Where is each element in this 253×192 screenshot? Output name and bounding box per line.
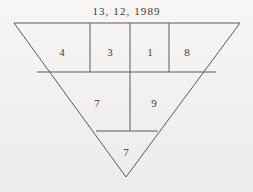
cell-value-row1-2: 3 bbox=[107, 46, 113, 58]
figure-page: 13, 12, 1989 4 3 1 8 7 9 7 bbox=[0, 0, 253, 192]
cell-value-row2-1: 7 bbox=[94, 97, 100, 109]
cell-value-row1-1: 4 bbox=[59, 46, 65, 58]
cell-value-row1-4: 8 bbox=[184, 46, 190, 58]
cell-value-row3-1: 7 bbox=[123, 146, 129, 158]
cell-value-row1-3: 1 bbox=[147, 46, 153, 58]
inverted-triangle-diagram bbox=[0, 0, 253, 192]
cell-value-row2-2: 9 bbox=[151, 97, 157, 109]
